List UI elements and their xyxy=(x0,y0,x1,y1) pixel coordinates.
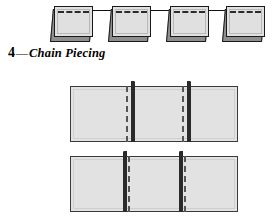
seam-allowance-flap xyxy=(123,152,127,212)
caption-dash: — xyxy=(15,46,29,61)
figure-title: Chain Piecing xyxy=(29,46,106,61)
figure-caption: 4 — Chain Piecing xyxy=(8,45,106,63)
fabric-top-layer xyxy=(54,6,93,37)
figure-number: 4 xyxy=(8,45,15,61)
stitch-line xyxy=(230,11,261,13)
stitch-line xyxy=(128,156,130,212)
joined-strip-seams-folded-right xyxy=(70,86,238,142)
seam xyxy=(182,82,192,142)
stitch-line xyxy=(116,11,147,13)
stitch-line xyxy=(126,86,128,142)
seam-flap-tip xyxy=(123,151,127,156)
fabric-strip xyxy=(70,86,238,142)
stitch-line xyxy=(184,156,186,212)
seam-flap-tip xyxy=(179,151,183,156)
stitch-line xyxy=(182,86,184,142)
seam xyxy=(126,82,136,142)
seam-flap-tip xyxy=(187,81,191,86)
pieced-unit xyxy=(222,6,266,42)
fabric-inner-outline xyxy=(73,89,235,139)
seam-allowance-flap xyxy=(187,82,191,142)
fabric-top-layer xyxy=(112,6,151,37)
joined-strip-seams-folded-left xyxy=(70,156,238,212)
pieced-unit xyxy=(108,6,152,42)
fabric-strip xyxy=(70,156,238,212)
pieced-unit xyxy=(166,6,210,42)
fabric-top-layer xyxy=(170,6,209,37)
seam xyxy=(122,152,132,212)
chain-piecing-figure: 4 — Chain Piecing xyxy=(0,0,272,218)
seam-allowance-flap xyxy=(131,82,135,142)
seam-flap-tip xyxy=(131,81,135,86)
fabric-top-layer xyxy=(226,6,265,37)
seam xyxy=(178,152,188,212)
stitch-line xyxy=(174,11,205,13)
pieced-unit xyxy=(50,6,94,42)
chain-of-pieced-squares xyxy=(0,0,272,46)
seam-allowance-flap xyxy=(179,152,183,212)
stitch-line xyxy=(58,11,89,13)
fabric-inner-outline xyxy=(73,159,235,209)
